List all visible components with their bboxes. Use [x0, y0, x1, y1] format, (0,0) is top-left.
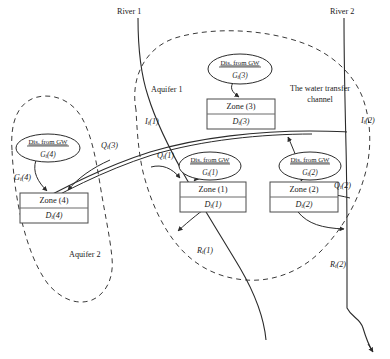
gw-node-gw4-symbol: Gt(4)	[40, 150, 56, 160]
river-2-label: River 2	[330, 7, 354, 16]
aquifer-2-label: Aquifer 2	[69, 250, 101, 259]
aquifer-1-label: Aquifer 1	[151, 85, 183, 94]
demand-label-zone3: Dt(3)	[232, 117, 250, 126]
gw-node-gw2-title: Dis. from GW	[290, 156, 330, 163]
qt1-connector	[151, 166, 180, 178]
river-1-label: River 1	[117, 7, 141, 16]
flow-label-Rt1: Rt(1)	[196, 246, 213, 255]
flow-label-Qt1: Qt(1)	[157, 151, 174, 160]
flow-label-It1: It(1)	[144, 117, 159, 126]
river-2-arrow	[368, 344, 373, 352]
zone-label-zone2: Zone (2)	[289, 185, 318, 194]
gw-node-gw4-title: Dis. from GW	[28, 138, 68, 145]
gw-node-gw3-symbol: Gt(3)	[232, 71, 248, 81]
zone-label-zone1: Zone (1)	[198, 185, 227, 194]
diagram-svg: River 1 River 2 Aquifer 1 Aquifer 2 The …	[0, 0, 390, 359]
gw4-to-zone4-arrow	[35, 160, 47, 191]
zone2-return-to-river2-arrow	[298, 212, 344, 229]
flow-label-It2: It(2)	[360, 116, 375, 125]
demand-label-zone2: Dt(2)	[295, 200, 313, 209]
demand-label-zone4: Dt(4)	[45, 211, 63, 220]
flow-label-Qt3: Qt(3)	[101, 141, 118, 150]
zone-label-zone3: Zone (3)	[226, 102, 255, 111]
gw-node-gw3-title: Dis. from GW	[220, 59, 260, 66]
flow-label-Rt2: Rt(2)	[329, 260, 346, 269]
transfer-channel-label: The water transfer	[290, 84, 350, 93]
flow-label-Qt2: Qt(2)	[334, 181, 351, 190]
gw-node-gw1-title: Dis. from GW	[190, 156, 230, 163]
transfer-channel-label-line2: channel	[307, 95, 333, 104]
diagram-canvas: River 1 River 2 Aquifer 1 Aquifer 2 The …	[0, 0, 390, 359]
gw-node-gw1-symbol: Gt(1)	[202, 168, 218, 178]
zone-label-zone4: Zone (4)	[39, 196, 68, 205]
flow-label-Gt4: Gt(4)	[14, 173, 31, 182]
gw-node-gw2-symbol: Gt(2)	[302, 168, 318, 178]
demand-label-zone1: Dt(1)	[204, 200, 222, 209]
channel-to-zone4-arrow	[68, 160, 110, 190]
